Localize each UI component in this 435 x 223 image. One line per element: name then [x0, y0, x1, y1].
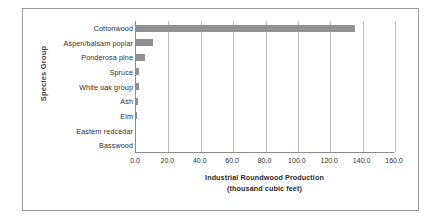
bar-row: [136, 79, 394, 94]
category-label: Spruce: [49, 65, 135, 80]
plot-area: [135, 21, 394, 153]
chart-frame: Species Group CottonwoodAspen/balsam pop…: [22, 8, 419, 211]
x-axis-tick-label: 160.0: [385, 157, 403, 164]
y-axis-title: Species Group: [39, 28, 48, 120]
x-axis-tick-label: 100.0: [288, 157, 306, 164]
bar: [136, 54, 145, 61]
bar-row: [136, 21, 394, 36]
category-label: Elm: [49, 109, 135, 124]
bar-row: [136, 123, 394, 138]
bar: [136, 25, 355, 32]
category-label: Ponderosa pine: [49, 50, 135, 65]
bar-row: [136, 65, 394, 80]
category-axis: CottonwoodAspen/balsam poplarPonderosa p…: [49, 21, 135, 153]
category-label: White oak group: [49, 80, 135, 95]
bar-series: [136, 21, 394, 152]
bar: [136, 39, 153, 46]
x-axis-tick-label: 20.0: [161, 157, 175, 164]
x-axis-tick-label: 60.0: [225, 157, 239, 164]
x-axis-tick-labels: 0.020.040.060.080.0100.0120.0140.0160.0: [135, 157, 394, 169]
x-axis-tick-label: 40.0: [193, 157, 207, 164]
category-label: Eastern redcedar: [49, 124, 135, 139]
bar-row: [136, 94, 394, 109]
x-axis-tick-label: 140.0: [353, 157, 371, 164]
gridline: [395, 21, 396, 152]
x-axis-title: Industrial Roundwood Production (thousan…: [135, 172, 394, 194]
bar-row: [136, 50, 394, 65]
x-axis-title-line2: (thousand cubic feet): [135, 183, 394, 194]
bar-row: [136, 108, 394, 123]
x-axis-tick-label: 120.0: [320, 157, 338, 164]
bar: [136, 83, 139, 90]
x-axis-tick-label: 80.0: [258, 157, 272, 164]
bar-row: [136, 138, 394, 153]
chart-figure: Species Group CottonwoodAspen/balsam pop…: [0, 0, 435, 223]
category-label: Aspen/balsam poplar: [49, 36, 135, 51]
category-label: Ash: [49, 94, 135, 109]
bar: [136, 98, 138, 105]
bar-row: [136, 36, 394, 51]
bar: [136, 68, 139, 75]
x-axis-title-line1: Industrial Roundwood Production: [135, 172, 394, 183]
category-label: Basswood: [49, 138, 135, 153]
x-axis-tick-label: 0.0: [130, 157, 140, 164]
category-label: Cottonwood: [49, 21, 135, 36]
